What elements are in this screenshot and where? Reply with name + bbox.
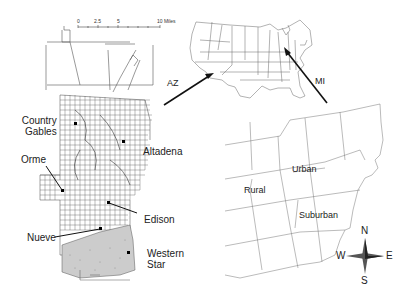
compass-n: N xyxy=(361,225,368,236)
label-urban: Urban xyxy=(292,164,317,175)
label-western-star: Western Star xyxy=(147,248,184,270)
scale-bar xyxy=(78,25,160,28)
label-edison: Edison xyxy=(144,214,175,225)
scale-tick-0: 0 xyxy=(77,18,80,24)
label-nueve: Nueve xyxy=(27,232,56,243)
label-orme: Orme xyxy=(21,154,46,165)
label-western-star-line1: Western xyxy=(147,248,184,259)
label-mi: MI xyxy=(315,76,325,87)
label-altadena: Altadena xyxy=(143,146,182,157)
scale-tick-10-miles: 10 Miles xyxy=(157,18,176,24)
compass-rose xyxy=(346,238,384,274)
arrows xyxy=(164,47,327,105)
label-az: AZ xyxy=(167,78,179,89)
label-country-gables-line1: Country xyxy=(20,115,57,126)
label-western-star-line2: Star xyxy=(147,259,184,270)
scale-tick-5: 5 xyxy=(117,18,120,24)
us-map xyxy=(190,20,312,98)
label-rural: Rural xyxy=(244,185,266,196)
az-city-map xyxy=(40,25,160,280)
label-country-gables: Country Gables xyxy=(20,115,57,137)
compass-w: W xyxy=(336,250,345,261)
compass-s: S xyxy=(361,275,368,286)
scale-tick-2-5: 2.5 xyxy=(94,18,101,24)
label-country-gables-line2: Gables xyxy=(20,126,57,137)
compass-e: E xyxy=(386,250,393,261)
label-suburban: Suburban xyxy=(299,210,338,221)
